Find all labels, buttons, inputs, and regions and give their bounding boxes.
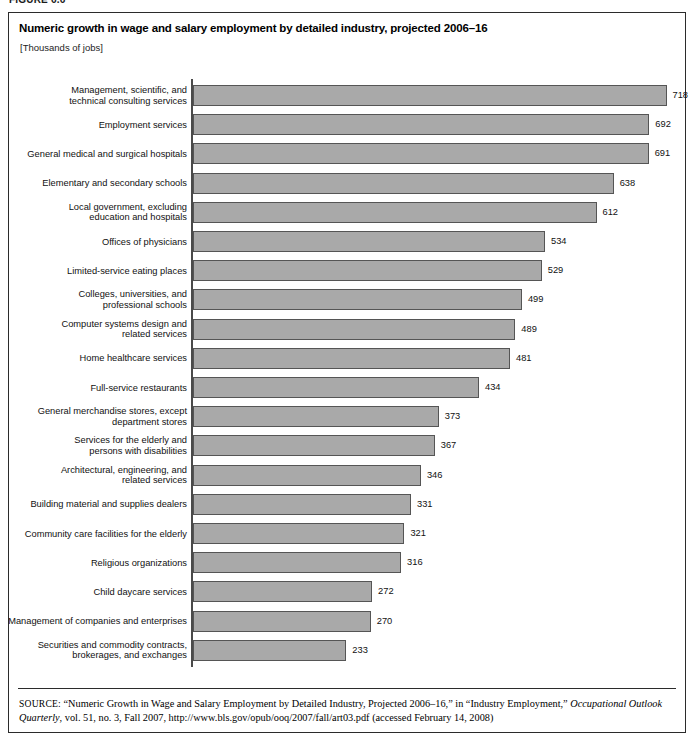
bar: [193, 231, 546, 252]
category-label: Building material and supplies dealers: [0, 499, 187, 510]
bar-chart-plot-area: Management, scientific, and technical co…: [9, 79, 685, 687]
bar-row: General merchandise stores, except depar…: [9, 406, 685, 427]
bar-value-label: 367: [441, 440, 457, 451]
bar-row: Offices of physicians534: [9, 231, 685, 252]
bar-row: Elementary and secondary schools638: [9, 173, 685, 194]
bar-value-label: 638: [620, 178, 636, 189]
bar-row: Management of companies and enterprises2…: [9, 611, 685, 632]
bar-row: General medical and surgical hospitals69…: [9, 143, 685, 164]
bar-value-label: 270: [377, 616, 393, 627]
source-kicker: SOURCE:: [19, 698, 61, 709]
category-label: Architectural, engineering, and related …: [0, 465, 187, 486]
category-label: General medical and surgical hospitals: [0, 149, 187, 160]
bar-row: Computer systems design and related serv…: [9, 319, 685, 340]
bar-value-label: 373: [445, 411, 461, 422]
bar-value-label: 499: [528, 294, 544, 305]
category-label: Home healthcare services: [0, 353, 187, 364]
bar-value-label: 434: [485, 382, 501, 393]
bar: [193, 348, 511, 369]
category-label: Offices of physicians: [0, 237, 187, 248]
bar: [193, 319, 516, 340]
bar: [193, 611, 371, 632]
category-label: Local government, excluding education an…: [0, 202, 187, 223]
bar-value-label: 534: [551, 236, 567, 247]
bar: [193, 173, 614, 194]
bar-value-label: 481: [516, 353, 532, 364]
bar-row: Home healthcare services481: [9, 348, 685, 369]
bar: [193, 552, 402, 573]
category-label: Employment services: [0, 120, 187, 131]
bar-row: Full-service restaurants434: [9, 377, 685, 398]
bar: [193, 202, 597, 223]
source-text-part1: “Numeric Growth in Wage and Salary Emplo…: [61, 698, 570, 709]
category-label: Elementary and secondary schools: [0, 178, 187, 189]
bar-value-label: 692: [655, 119, 671, 130]
bar: [193, 523, 405, 544]
source-note: SOURCE: “Numeric Growth in Wage and Sala…: [19, 697, 675, 725]
bar: [193, 435, 435, 456]
bar-value-label: 529: [548, 265, 564, 276]
category-label: Limited-service eating places: [0, 266, 187, 277]
category-label: Religious organizations: [0, 558, 187, 569]
figure-caption: FIGURE 6.6: [9, 0, 65, 5]
y-axis-line: [191, 79, 193, 667]
bar-value-label: 321: [410, 528, 426, 539]
source-text-part2: , vol. 51, no. 3, Fall 2007, http://www.…: [60, 712, 494, 723]
bar: [193, 85, 667, 106]
bar-value-label: 691: [655, 148, 671, 159]
bar-value-label: 489: [521, 324, 537, 335]
category-label: General merchandise stores, except depar…: [0, 406, 187, 427]
bar-row: Services for the elderly and persons wit…: [9, 435, 685, 456]
bar-value-label: 316: [407, 557, 423, 568]
bar: [193, 494, 412, 515]
category-label: Services for the elderly and persons wit…: [0, 435, 187, 456]
bar-row: Religious organizations316: [9, 552, 685, 573]
bar: [193, 143, 649, 164]
bar-row: Employment services692: [9, 114, 685, 135]
bar-row: Limited-service eating places529: [9, 260, 685, 281]
bar-value-label: 272: [378, 586, 394, 597]
bar: [193, 260, 542, 281]
bar-value-label: 612: [603, 207, 619, 218]
bar-row: Building material and supplies dealers33…: [9, 494, 685, 515]
bar-value-label: 346: [427, 470, 443, 481]
bar-row: Architectural, engineering, and related …: [9, 465, 685, 486]
bar-row: Child daycare services272: [9, 581, 685, 602]
category-label: Computer systems design and related serv…: [0, 319, 187, 340]
bar-value-label: 233: [352, 645, 368, 656]
bar-row: Colleges, universities, and professional…: [9, 289, 685, 310]
bar-row: Securities and commodity contracts, brok…: [9, 640, 685, 661]
page-title: Numeric growth in wage and salary employ…: [19, 21, 669, 35]
category-label: Management of companies and enterprises: [0, 616, 187, 627]
category-label: Management, scientific, and technical co…: [0, 85, 187, 106]
bar-row: Management, scientific, and technical co…: [9, 85, 685, 106]
bar-row: Community care facilities for the elderl…: [9, 523, 685, 544]
category-label: Full-service restaurants: [0, 383, 187, 394]
bar: [193, 581, 373, 602]
category-label: Child daycare services: [0, 587, 187, 598]
figure-frame: Numeric growth in wage and salary employ…: [8, 12, 686, 733]
bar-value-label: 331: [417, 499, 433, 510]
category-label: Securities and commodity contracts, brok…: [0, 640, 187, 661]
bar: [193, 640, 347, 661]
category-label: Colleges, universities, and professional…: [0, 289, 187, 310]
category-label: Community care facilities for the elderl…: [0, 529, 187, 540]
chart-units-note: [Thousands of jobs]: [20, 42, 103, 54]
bar-value-label: 718: [673, 90, 689, 101]
bar: [193, 406, 439, 427]
bar: [193, 465, 421, 486]
bar-row: Local government, excluding education an…: [9, 202, 685, 223]
bar: [193, 289, 522, 310]
source-divider: [18, 688, 676, 689]
bar: [193, 377, 480, 398]
bar: [193, 114, 650, 135]
